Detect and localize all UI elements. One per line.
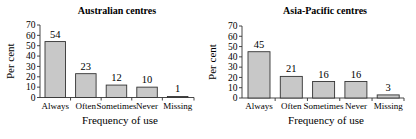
y-tick-label: 50 (26, 41, 36, 51)
y-axis-label: Per cent (4, 43, 16, 79)
chart-title: Asia-Pacific centres (283, 5, 367, 16)
x-tick-label: Never (345, 101, 367, 111)
bar-sometimes (313, 82, 335, 98)
x-tick-label: Often (281, 101, 302, 111)
y-tick-label: 60 (228, 32, 238, 42)
x-tick-label: Sometimes (304, 101, 344, 111)
bar-never (137, 87, 158, 97)
value-label: 3 (386, 82, 391, 93)
x-tick-label: Always (245, 101, 273, 111)
bar-always (248, 52, 270, 98)
value-label: 1 (175, 83, 180, 94)
y-tick-label: 70 (228, 21, 238, 31)
bar-missing (167, 96, 188, 97)
x-tick-label: Sometimes (96, 101, 136, 111)
y-tick-label: 50 (228, 42, 238, 52)
value-label: 10 (142, 74, 153, 85)
value-label: 21 (286, 63, 297, 74)
y-tick-label: 70 (26, 20, 36, 30)
bar-never (345, 82, 367, 98)
y-tick-label: 20 (26, 72, 36, 82)
value-label: 54 (50, 29, 61, 40)
value-label: 23 (81, 61, 92, 72)
y-tick-label: 10 (26, 82, 36, 92)
value-label: 45 (254, 39, 265, 50)
bar-often (280, 76, 302, 98)
bar-often (76, 74, 97, 98)
value-label: 16 (318, 69, 329, 80)
value-label: 16 (351, 69, 362, 80)
y-axis-label: Per cent (206, 44, 218, 80)
chart-title: Australian centres (78, 5, 157, 16)
y-tick-label: 10 (228, 83, 238, 93)
x-tick-label: Often (76, 101, 97, 111)
y-tick-label: 40 (26, 51, 36, 61)
x-tick-label: Missing (163, 101, 193, 111)
bar-always (45, 42, 66, 98)
chart-asia-pacific-centres: Asia-Pacific centres010203040506070Per c… (206, 5, 404, 126)
x-tick-label: Missing (374, 101, 404, 111)
value-label: 12 (111, 72, 122, 83)
y-tick-label: 60 (26, 31, 36, 41)
x-axis-label: Frequency of use (82, 114, 158, 126)
x-axis-label: Frequency of use (288, 114, 364, 126)
y-tick-label: 0 (233, 93, 238, 103)
y-tick-label: 20 (228, 73, 238, 83)
chart-australian-centres: Australian centres010203040506070Per cen… (4, 5, 194, 126)
bar-missing (377, 95, 399, 98)
y-tick-label: 30 (228, 62, 238, 72)
x-tick-label: Always (42, 101, 70, 111)
charts-canvas: Australian centres010203040506070Per cen… (0, 0, 416, 139)
bar-sometimes (106, 85, 127, 97)
y-tick-label: 40 (228, 52, 238, 62)
y-tick-label: 30 (26, 62, 36, 72)
x-tick-label: Never (136, 101, 158, 111)
y-tick-label: 0 (31, 93, 36, 103)
